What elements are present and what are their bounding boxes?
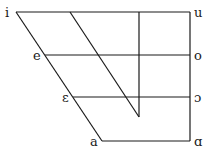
vowel-labels: i e ɛ a u o ɔ ɑ [5,5,202,149]
vowel-open-e: ɛ [62,90,69,105]
vowel-i: i [5,5,9,20]
vowel-o: o [194,48,202,63]
vowel-open-o: ɔ [194,90,201,105]
front-edge [16,12,102,141]
trapezoid-lines [16,12,190,141]
vowel-a: a [90,134,98,149]
vowel-script-a: ɑ [194,134,202,149]
vowel-u: u [194,5,202,20]
vowel-e: e [33,48,41,63]
vowel-chart: i e ɛ a u o ɔ ɑ [0,0,205,152]
central-diagonal [70,12,139,117]
